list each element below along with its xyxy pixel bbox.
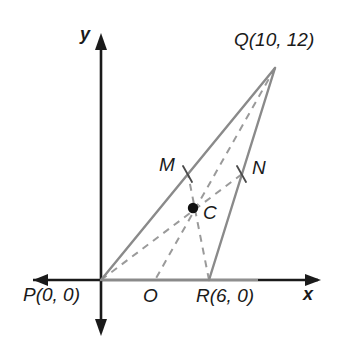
- label-origin-O: O: [143, 286, 158, 305]
- label-midpoint-N: N: [252, 158, 266, 177]
- coordinate-geometry-figure: Q(10, 12) P(0, 0) R(6, 0) O M N C y x: [0, 0, 342, 347]
- centroid-point-dot: [188, 203, 198, 213]
- label-point-R: R(6, 0): [196, 286, 254, 305]
- label-point-P: P(0, 0): [23, 285, 80, 304]
- y-axis-bottom-arrowhead: [95, 319, 107, 336]
- label-x-axis: x: [303, 285, 313, 303]
- label-centroid-C: C: [203, 203, 217, 222]
- median-P-to-N: [101, 174, 242, 280]
- label-midpoint-M: M: [159, 155, 175, 174]
- median-R-to-M: [188, 174, 209, 280]
- label-point-Q: Q(10, 12): [234, 30, 314, 49]
- label-y-axis: y: [80, 25, 90, 43]
- y-axis-top-arrowhead: [95, 33, 107, 50]
